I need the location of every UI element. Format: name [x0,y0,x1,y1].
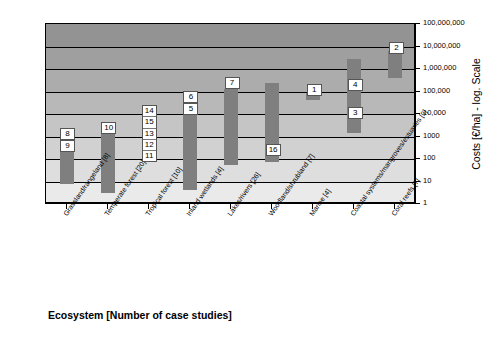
gridline [46,47,414,48]
bar [388,51,402,78]
bar-label: 16 [266,144,281,156]
y-axis-tick [415,91,420,92]
y-axis-title: Costs [€/ha] - log. Scale [470,24,482,204]
y-axis-tick-label: 1,000,000 [423,64,456,72]
y-axis-tick [415,136,420,137]
y-axis-tick-label: 1000 [423,132,440,140]
y-axis-tick-label: 100,000,000 [423,19,465,27]
bar-label-stack: 1415131211 [142,105,157,162]
bar-label: 13 [143,129,156,140]
bar-label: 4 [348,79,363,91]
bar-label: 5 [183,103,198,115]
bar-label: 15 [143,117,156,128]
x-axis-title: Ecosystem [Number of case studies] [48,309,232,321]
bar-label: 9 [60,140,75,152]
y-axis-tick [415,68,420,69]
bar-label: 8 [60,128,75,140]
bar-label: 10 [101,122,116,134]
y-axis-tick [415,158,420,159]
bar-label: 12 [143,140,156,151]
y-axis-tick-label: 1 [423,199,427,207]
y-axis-tick-label: 100 [423,154,436,162]
bar-label: 6 [183,91,198,103]
bar-label: 2 [389,42,404,54]
bar-label: 7 [225,77,240,89]
y-axis-tick [415,23,420,24]
plot-band [46,24,414,47]
y-axis-tick-label: 100,000 [423,87,450,95]
bar [347,59,361,133]
y-axis-tick [415,46,420,47]
y-axis-tick-label: 10 [423,177,431,185]
bar-label: 14 [143,106,156,117]
y-axis-tick-label: 10,000,000 [423,42,461,50]
bar [224,89,238,165]
bar-label: 3 [348,107,363,119]
bar-label: 1 [307,84,322,96]
bar [183,103,197,190]
chart-container: 89101415131211657161432 100,000,00010,00… [0,0,502,363]
plot-area: 89101415131211657161432 [45,23,415,203]
bar-label: 11 [143,151,156,161]
